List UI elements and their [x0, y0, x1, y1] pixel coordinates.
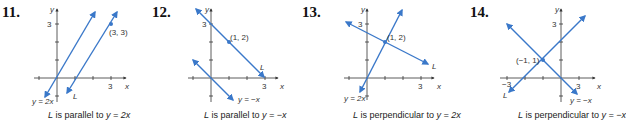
x-tick-label: 3 [418, 82, 423, 91]
ref-line-label: y = −x [569, 96, 593, 105]
y-axis-label: y [360, 5, 366, 14]
x-tick-neg-label: −3 [502, 80, 512, 89]
x-tick-label: 3 [576, 82, 581, 91]
figure-13: 13. (1, 2) L y = 2x 3 3 x y L is perpend… [300, 0, 450, 127]
y-axis-label: y [554, 5, 560, 14]
y-axis-label: y [49, 5, 55, 14]
point-label: (1, 2) [387, 33, 406, 42]
figure-14: 14. (−1, 1) L y = −x 3 −3 3 x y L is per… [445, 0, 605, 127]
line-label: L [503, 91, 507, 100]
y-tick-label: 3 [552, 20, 557, 29]
x-tick-label: 3 [108, 82, 113, 91]
ref-line-label: y = −x [237, 95, 261, 104]
figure-12: 12. (1, 2) L y = −x 3 3 x y L is paralle… [150, 0, 300, 127]
caption: L is perpendicular to y = −x [518, 110, 626, 120]
x-axis-label: x [436, 82, 442, 91]
graph-13: (1, 2) L y = 2x 3 3 x y [300, 0, 450, 127]
y-tick-label: 3 [47, 20, 52, 29]
figure-11: 11. (3, 3) L y = 2x 3 3 x y L is paralle… [0, 0, 150, 127]
caption: L is parallel to y = −x [204, 110, 287, 120]
x-axis-label: x [124, 82, 130, 91]
y-axis-label: y [204, 5, 210, 14]
point-label: (3, 3) [109, 28, 128, 37]
graph-14: (−1, 1) L y = −x 3 −3 3 x y [445, 0, 605, 127]
caption: L is parallel to y = 2x [48, 110, 130, 120]
line-label: L [432, 62, 436, 71]
x-axis-label: x [279, 82, 285, 91]
graph-12: (1, 2) L y = −x 3 3 x y [150, 0, 300, 127]
y-tick-label: 3 [358, 20, 363, 29]
point-label: (−1, 1) [516, 56, 540, 65]
graph-11: (3, 3) L y = 2x 3 3 x y [0, 0, 150, 127]
ref-line-label: y = 2x [31, 97, 55, 106]
x-tick-label: 3 [262, 82, 267, 91]
x-axis-label: x [596, 82, 602, 91]
ref-line-label: y = 2x [343, 94, 367, 103]
line-label: L [73, 92, 77, 101]
y-tick-label: 3 [202, 20, 207, 29]
point-label: (1, 2) [230, 33, 249, 42]
line-label: L [260, 63, 264, 72]
